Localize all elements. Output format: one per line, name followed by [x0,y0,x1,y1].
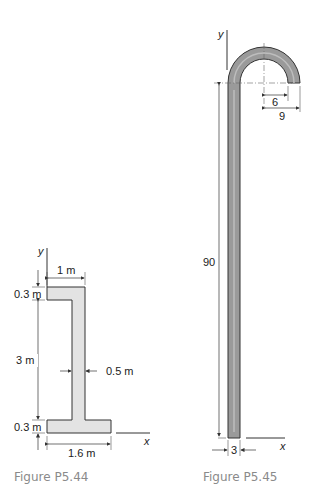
dim-web-height-label: 3 m [16,354,34,366]
figure-p5-45: y x 6 9 90 3 Figure P5.45 [203,28,300,484]
dim-top-thickness-label: 0.3 m [14,288,42,300]
figure-p5-44: y x 1 m 0.3 m 3 m 0.3 m 0.5 m 1.6 m F [14,245,150,484]
dim-web-thickness-label: 0.5 m [106,365,134,377]
figure-caption: Figure P5.45 [203,470,277,484]
dim-bottom-thickness-label: 0.3 m [14,421,42,433]
figure-caption: Figure P5.44 [14,470,88,484]
dim-inner-radius-label: 6 [272,96,278,108]
dim-outer-radius-label: 9 [279,110,285,122]
dim-height-label: 90 [203,256,215,268]
figures-canvas: y x 1 m 0.3 m 3 m 0.3 m 0.5 m 1.6 m F [0,0,310,485]
y-axis-label: y [217,28,225,40]
y-axis-label: y [37,245,45,257]
x-axis-label: x [143,435,150,447]
dim-bottom-width-label: 1.6 m [68,447,96,459]
dim-top-width-label: 1 m [57,264,75,276]
x-axis-label: x [279,440,286,452]
dim-thickness-label: 3 [231,444,237,456]
i-section-shape [47,287,111,433]
hook-shape [228,47,300,438]
